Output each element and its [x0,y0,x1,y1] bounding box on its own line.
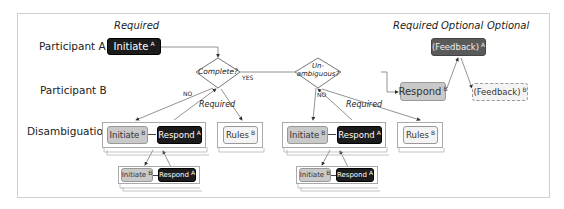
node-d2-initiate-label: Initiate [290,130,320,140]
decision-unambiguous: Un- ambiguous? [296,62,340,78]
node-d1-respond-label: Respond [158,130,195,140]
node-d2-rules: RulesB [403,126,438,144]
node-d2-sub-initiate: InitiateB [299,168,331,182]
decision-unambiguous-line-2: ambiguous? [296,70,340,78]
node-d2-sub-respond: RespondA [336,168,374,182]
node-d1-sub-respond: RespondA [158,168,196,182]
node-feedback-a-sup: A [481,41,485,48]
node-feedback-b-sup: B [523,86,527,93]
node-d1-initiate-sup: B [141,129,145,136]
node-d1-respond-sup: A [197,129,201,136]
node-d2-respond-sup: A [377,129,381,136]
edge-label-no-2: NO [317,91,326,98]
node-feedback-b-label: (Feedback) [473,87,520,97]
connector-lines [0,0,564,209]
node-respond-b: RespondB [400,82,446,101]
arrow-d2 [328,134,336,135]
node-d2-respond: RespondA [337,126,382,144]
node-initiate-a-label: Initiate [113,41,148,52]
node-initiate-a: InitiateA [107,38,161,55]
edge-label-required-2: Required [346,100,382,109]
node-respond-b-sup: B [443,85,447,92]
node-d1-initiate: InitiateB [107,126,148,144]
node-d2-sub-respond-sup: A [369,169,373,176]
node-d1-sub-initiate-sup: B [148,169,152,176]
decision-unambiguous-line-1: Un- [296,62,340,70]
node-feedback-a-label: (Feedback) [432,42,479,52]
node-respond-b-label: Respond [398,86,441,97]
node-initiate-a-sup: A [150,40,154,47]
arrow-d1 [148,134,156,135]
node-feedback-b: (Feedback)B [472,83,528,101]
node-d2-initiate-sup: B [321,129,325,136]
node-d1-sub-initiate: InitiateB [121,168,153,182]
decision-complete: Complete? [197,67,239,76]
node-d1-sub-respond-sup: A [191,169,195,176]
edge-label-required-1: Required [199,100,235,109]
node-d1-sub-initiate-label: Initiate [122,171,146,179]
node-d2-rules-label: Rules [406,130,429,140]
node-d2-sub-respond-label: Respond [337,171,367,179]
node-d2-respond-label: Respond [338,130,375,140]
node-d1-rules-label: Rules [226,130,249,140]
edge-label-no-1: NO [183,90,192,97]
node-d1-rules-sup: B [251,129,255,136]
node-d2-rules-sup: B [431,129,435,136]
node-d1-initiate-label: Initiate [110,130,140,140]
node-d1-respond: RespondA [157,126,202,144]
node-d1-sub-respond-label: Respond [159,171,189,179]
node-feedback-a: (Feedback)A [431,38,486,56]
node-d1-rules: RulesB [223,126,258,144]
edge-label-yes: YES [242,74,253,81]
node-d2-sub-initiate-sup: B [326,169,330,176]
node-d2-initiate: InitiateB [287,126,328,144]
node-d2-sub-initiate-label: Initiate [300,171,324,179]
